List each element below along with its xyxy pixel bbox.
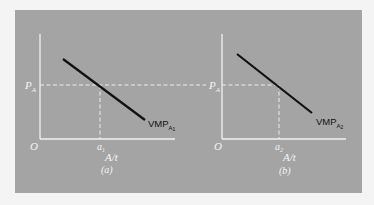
caption-a: (a) [101,164,113,176]
origin-label-a: O [30,140,38,152]
x-axis-label-a: A/t [104,151,119,163]
panel-background [15,10,362,193]
origin-label-b: O [214,140,222,152]
x-axis-label-b: A/t [282,151,297,163]
vmp-diagram: PA O a1 A/t (a) VMPA1 PA O a2 A/t (b) VM… [0,0,374,205]
caption-b: (b) [279,165,291,177]
